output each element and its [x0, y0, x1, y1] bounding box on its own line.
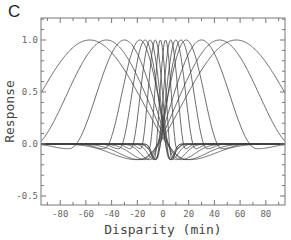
x-tick-label: 60	[235, 209, 246, 219]
y-tick-label: -0.5	[16, 191, 38, 201]
x-tick-label: 40	[209, 209, 220, 219]
x-tick-label: -20	[129, 209, 145, 219]
y-tick-label: 0.5	[22, 87, 38, 97]
line-chart: -80-60-40-20020406080 -0.50.00.51.0 Disp…	[0, 0, 291, 240]
tuning-curves	[42, 40, 285, 160]
y-axis-label: Response	[2, 80, 17, 143]
x-axis-ticks: -80-60-40-20020406080	[47, 18, 278, 219]
y-tick-label: 0.0	[22, 139, 38, 149]
x-tick-label: 0	[160, 209, 165, 219]
x-tick-label: -80	[52, 209, 68, 219]
plot-frame	[41, 18, 285, 205]
x-tick-label: -40	[103, 209, 119, 219]
x-tick-label: 20	[183, 209, 194, 219]
x-tick-label: 80	[260, 209, 271, 219]
y-tick-label: 1.0	[22, 35, 38, 45]
y-axis-ticks: -0.50.00.51.0	[16, 19, 285, 201]
x-axis-label: Disparity (min)	[104, 222, 221, 237]
x-tick-label: -60	[78, 209, 94, 219]
